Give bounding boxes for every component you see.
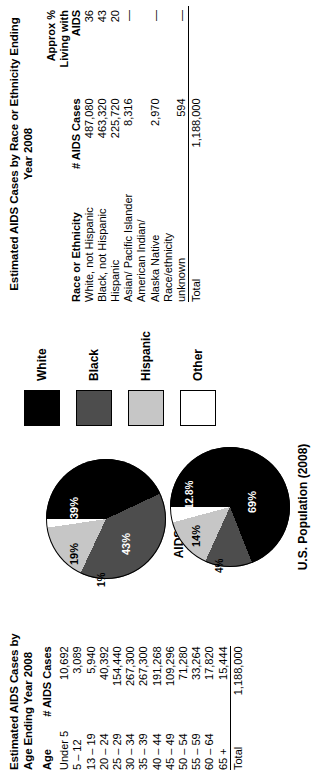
race-pct-col-header: Approx % Living with AIDS (45, 6, 83, 80)
race-pct: 36 (83, 6, 96, 80)
age-table-block: Estimated AIDS Cases by Age Ending Year … (8, 610, 245, 770)
race-label: Black, not Hispanic (96, 177, 109, 302)
rotated-page-wrapper: Estimated AIDS Cases by Age Ending Year … (0, 0, 320, 778)
age-label: 20 – 24 (98, 717, 111, 770)
age-cases: 40,392 (98, 646, 111, 717)
legend-swatch-black-icon (76, 390, 112, 426)
table-row: Asian/ Pacific Islander 8,316 — (122, 6, 135, 302)
legend-item-white: White (24, 331, 60, 426)
age-label: 5 – 12 (71, 717, 84, 770)
pie-us-population-title: U.S. Population (2008) (296, 422, 310, 592)
table-row: 30 – 34267,300 (124, 646, 137, 770)
slice-label-other: 1% (96, 573, 107, 587)
table-row: 65 +15,444 (217, 646, 231, 770)
race-label: Hispanic (109, 177, 122, 302)
table-row: 20 – 2440,392 (98, 646, 111, 770)
age-label: 40 – 44 (151, 717, 164, 770)
age-label: 60 – 64 (203, 717, 216, 770)
table-row: 25 – 29154,440 (111, 646, 124, 770)
table-row: White, not Hispanic 487,080 36 (83, 6, 96, 302)
pie-chart-aids-patients: 43% 39% 19% 1% AIDS Patients (46, 446, 166, 592)
age-cases: 15,444 (217, 646, 231, 717)
age-col-header: Age (41, 717, 58, 770)
table-row: Under 510,692 (58, 646, 71, 770)
legend-swatch-other-icon (180, 390, 216, 426)
race-cases: 8,316 (122, 80, 135, 177)
age-total-label: Total (230, 717, 245, 770)
age-cases: 154,440 (111, 646, 124, 717)
table-row: 13 – 195,940 (85, 646, 98, 770)
slice-label-white: 69% (246, 491, 258, 513)
age-cases: 10,692 (58, 646, 71, 717)
age-label: 25 – 29 (111, 717, 124, 770)
race-pct: 43 (96, 6, 109, 80)
race-label: American Indian/ Alaska Native (135, 177, 161, 302)
age-cases: 5,940 (85, 646, 98, 717)
age-cases: 3,089 (71, 646, 84, 717)
table-row: 5 – 123,089 (71, 646, 84, 770)
table-row: 60 – 6417,820 (203, 646, 216, 770)
age-table: Age # AIDS Cases Under 510,692 5 – 123,0… (41, 646, 245, 770)
race-total-pct (189, 6, 204, 80)
legend-item-black: Black (76, 331, 112, 426)
age-cases: 17,820 (203, 646, 216, 717)
age-cases: 267,300 (124, 646, 137, 717)
race-pct: — (162, 6, 189, 80)
age-cases: 33,264 (190, 646, 203, 717)
legend-swatch-hispanic-icon (128, 390, 164, 426)
age-cases: 267,300 (137, 646, 150, 717)
age-label: 50 – 54 (177, 717, 190, 770)
race-table-block: Estimated AIDS Cases by Race or Ethnicit… (8, 6, 203, 302)
slice-label-black: 39% (68, 497, 80, 519)
legend-item-other: Other (180, 331, 216, 426)
legend: White Black Hispanic Other (24, 331, 232, 426)
legend-label-black: Black (87, 349, 101, 381)
age-cases: 109,296 (164, 646, 177, 717)
legend-label-other: Other (191, 349, 205, 381)
race-cases: 463,320 (96, 80, 109, 177)
table-row: 45 – 49109,296 (164, 646, 177, 770)
age-cases-col-header: # AIDS Cases (41, 646, 58, 717)
race-total-label: Total (189, 177, 204, 302)
age-label: 65 + (217, 717, 231, 770)
race-pct: — (122, 6, 135, 80)
pie-aids-patients-graphic: 43% 39% 19% 1% (46, 459, 166, 579)
age-label: 30 – 34 (124, 717, 137, 770)
race-col-header: Race or Ethnicity (45, 177, 83, 302)
race-label: Asian/ Pacific Islander (122, 177, 135, 302)
race-pct: 20 (109, 6, 122, 80)
table-row: Race/ethnicity unknown 594 — (162, 6, 189, 302)
race-table-header-row: Race or Ethnicity # AIDS Cases Approx % … (45, 6, 83, 302)
race-total-value: 1,188,000 (189, 80, 204, 177)
slice-label-white: 43% (120, 533, 132, 555)
age-table-title: Estimated AIDS Cases by Age Ending Year … (8, 610, 35, 770)
race-cases: 487,080 (83, 80, 96, 177)
legend-item-hispanic: Hispanic (128, 331, 164, 426)
age-label: 55 – 59 (190, 717, 203, 770)
race-pct: — (135, 6, 161, 80)
age-table-header-row: Age # AIDS Cases (41, 646, 58, 770)
table-row: 35 – 39267,300 (137, 646, 150, 770)
table-row: 40 – 44191,268 (151, 646, 164, 770)
race-cases: 225,720 (109, 80, 122, 177)
slice-label-hispanic: 14% (190, 525, 202, 547)
legend-label-hispanic: Hispanic (139, 331, 153, 381)
table-row: Hispanic 225,720 20 (109, 6, 122, 302)
slice-label-hispanic: 19% (68, 543, 80, 565)
table-row: Black, not Hispanic 463,320 43 (96, 6, 109, 302)
slice-label-other: 4% (214, 559, 225, 573)
race-table-title: Estimated AIDS Cases by Race or Ethnicit… (8, 6, 35, 302)
legend-swatch-white-icon (24, 390, 60, 426)
age-label: 35 – 39 (137, 717, 150, 770)
table-row: American Indian/ Alaska Native 2,970 — (135, 6, 161, 302)
race-cases: 594 (162, 80, 189, 177)
pie-chart-us-population: 69% 12.8% 14% 4% U.S. Population (2008) (170, 422, 290, 592)
age-total-row: Total 1,188,000 (230, 646, 245, 770)
age-label: Under 5 (58, 717, 71, 770)
age-total-value: 1,188,000 (230, 646, 245, 717)
slice-label-black: 12.8% (184, 481, 195, 509)
age-label: 45 – 49 (164, 717, 177, 770)
pie-us-population-graphic: 69% 12.8% 14% 4% (170, 447, 290, 567)
infographic-canvas: Estimated AIDS Cases by Age Ending Year … (0, 0, 320, 778)
legend-label-white: White (35, 348, 49, 381)
